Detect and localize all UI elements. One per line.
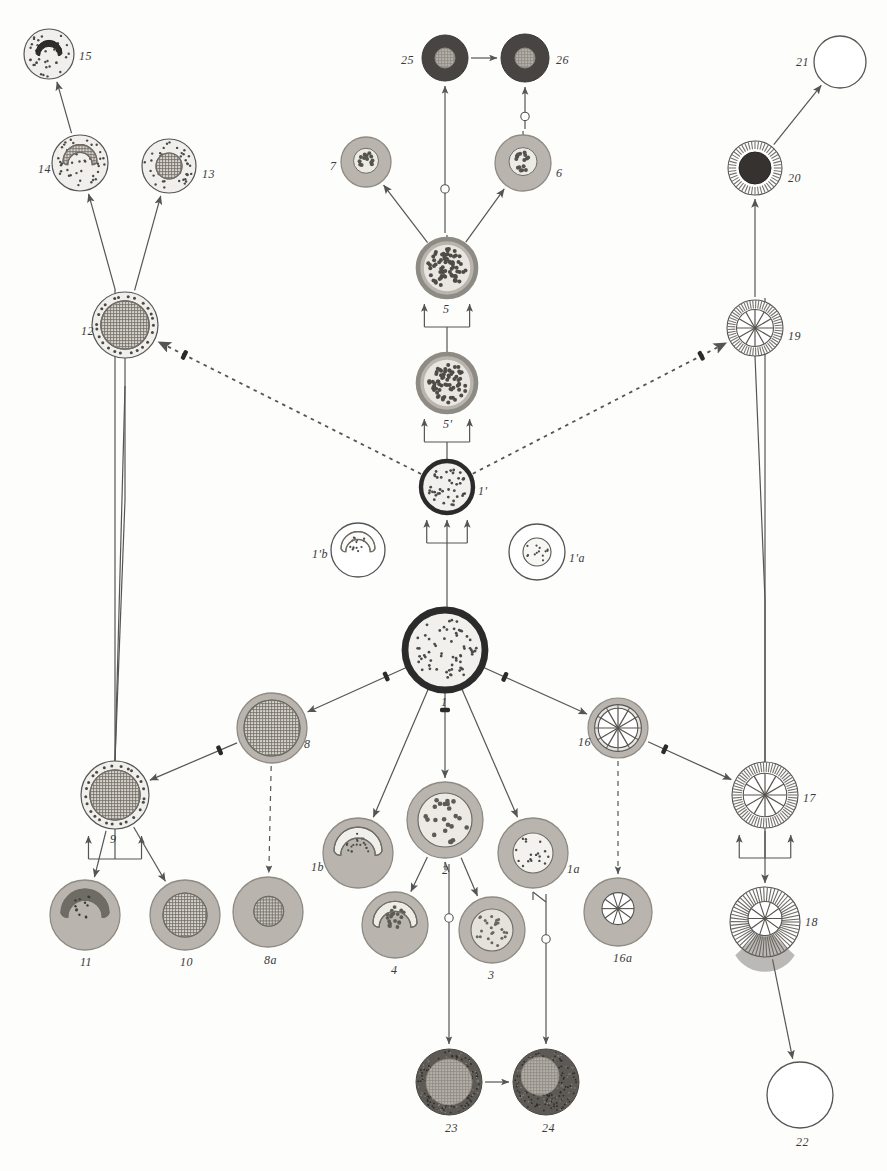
connector-1-to-8 [308, 668, 406, 712]
connector-1a-to-24 [533, 892, 550, 1044]
cell-20[interactable] [728, 141, 782, 195]
cell-3[interactable] [459, 897, 525, 963]
connector-2-to-4 [411, 857, 427, 892]
cell-label-2: 2 [442, 863, 449, 878]
cell-label-8a: 8a [264, 953, 277, 968]
cell-label-1pb: 1'b [312, 547, 328, 562]
cell-label-1p: 1' [478, 484, 488, 499]
cell-21[interactable] [814, 36, 866, 88]
cell-7[interactable] [341, 137, 391, 187]
cell-12[interactable] [92, 292, 158, 358]
cell-label-6: 6 [556, 166, 563, 181]
cell-1b[interactable] [323, 818, 393, 888]
cell-26[interactable] [501, 34, 549, 82]
connector-5-to-7 [384, 185, 428, 243]
connector-1-to-16 [484, 668, 587, 714]
cell-2[interactable] [407, 782, 483, 858]
cell-5p[interactable] [418, 354, 476, 412]
cell-label-11: 11 [80, 955, 92, 970]
cell-label-9: 9 [110, 832, 117, 847]
connector-2-to-23 [445, 862, 453, 1044]
cell-19[interactable] [727, 300, 783, 356]
connector-14-to-15 [57, 82, 72, 133]
cell-8[interactable] [237, 693, 307, 763]
connector-2-to-3 [461, 858, 477, 896]
cell-18[interactable] [730, 887, 800, 972]
cell-label-3: 3 [488, 968, 495, 983]
cell-1[interactable] [405, 610, 485, 690]
diagram-canvas: 151413129111088a1b2431a16a16171822192021… [0, 0, 887, 1171]
cell-8a[interactable] [233, 877, 303, 947]
cell-label-1b: 1b [311, 860, 324, 875]
cell-22[interactable] [767, 1062, 833, 1128]
cell-label-5: 5 [443, 302, 450, 317]
cell-label-1pa: 1'a [569, 551, 585, 566]
connector-20-to-21 [774, 85, 821, 144]
cell-label-1a: 1a [567, 862, 580, 877]
cell-label-21: 21 [796, 55, 809, 70]
cell-label-24: 24 [542, 1121, 555, 1136]
connector-12-to-14 [89, 194, 116, 290]
connector-9-to-11 [94, 831, 106, 877]
cell-label-5p: 5' [443, 417, 453, 432]
cell-label-22: 22 [796, 1135, 809, 1150]
cell-label-16a: 16a [613, 951, 633, 966]
cell-25[interactable] [422, 35, 468, 81]
cell-14[interactable] [52, 135, 108, 191]
cell-4[interactable] [362, 892, 428, 958]
cell-1p[interactable] [421, 461, 473, 513]
cell-label-19: 19 [788, 329, 801, 344]
connector-1-to-1p [427, 520, 468, 608]
cell-5[interactable] [418, 239, 476, 297]
cell-16a[interactable] [584, 878, 652, 946]
connector-1p-to-19 [473, 343, 727, 474]
cell-label-8: 8 [304, 737, 311, 752]
connector-8-to-9 [150, 743, 237, 780]
cell-label-14: 14 [38, 162, 51, 177]
cell-1pa[interactable] [509, 524, 565, 580]
cell-label-4: 4 [391, 963, 398, 978]
connector-1p-to-12 [158, 342, 421, 474]
cell-label-25: 25 [401, 53, 414, 68]
cell-6[interactable] [495, 135, 551, 191]
cell-17[interactable] [732, 762, 798, 828]
cell-11[interactable] [50, 880, 120, 950]
connector-9-to-10 [134, 827, 166, 881]
cell-label-18: 18 [805, 915, 818, 930]
cell-1a[interactable] [498, 818, 568, 888]
cell-label-12: 12 [81, 324, 94, 339]
connector-5-to-6 [466, 189, 504, 242]
cell-label-10: 10 [180, 955, 193, 970]
cell-9[interactable] [81, 761, 149, 829]
lineage-svg [0, 0, 887, 1171]
cell-label-26: 26 [556, 53, 569, 68]
cell-label-15: 15 [79, 49, 92, 64]
connector-12-to-13 [135, 196, 161, 290]
cell-label-20: 20 [788, 171, 801, 186]
connector-9-to-12 [115, 386, 125, 761]
cell-24[interactable] [513, 1049, 579, 1115]
connector-16-to-17 [648, 742, 731, 780]
cell-16[interactable] [588, 698, 648, 758]
cell-label-13: 13 [202, 167, 215, 182]
vertical-trunks [115, 356, 765, 762]
cell-label-17: 17 [803, 791, 816, 806]
connector-8-to-8a [269, 766, 271, 873]
cell-13[interactable] [142, 139, 196, 193]
connector-18-to-22 [773, 959, 793, 1058]
cell-label-7: 7 [330, 159, 337, 174]
cell-label-1: 1 [441, 695, 448, 710]
cell-10[interactable] [150, 880, 220, 950]
cell-1pb[interactable] [331, 523, 385, 577]
cell-23[interactable] [416, 1049, 482, 1115]
cell-label-16: 16 [578, 735, 591, 750]
cell-15[interactable] [24, 29, 74, 79]
cell-label-23: 23 [445, 1121, 458, 1136]
